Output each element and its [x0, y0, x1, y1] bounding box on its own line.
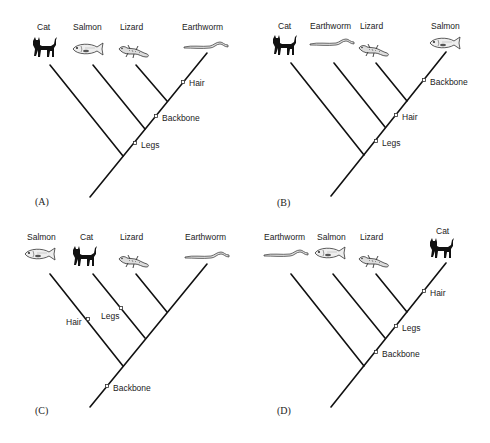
taxon-label-earthworm: Earthworm	[182, 22, 223, 32]
taxon-label-cat: Cat	[278, 21, 292, 31]
taxon-label-lizard: Lizard	[120, 22, 143, 32]
lizard-branch	[376, 63, 407, 101]
character-label-legs: Legs	[101, 311, 119, 321]
salmon-branch	[333, 274, 385, 338]
lizard-branch	[136, 274, 167, 312]
character-label-legs: Legs	[382, 138, 400, 148]
panel-label: (D)	[277, 405, 291, 417]
character-label-legs: Legs	[141, 140, 159, 150]
character-mark	[375, 140, 378, 143]
character-mark	[120, 307, 123, 310]
cat-branch	[93, 274, 145, 338]
taxon-label-earthworm: Earthworm	[185, 232, 226, 242]
character-label-hair: Hair	[430, 288, 446, 298]
lizard-branch	[376, 274, 407, 312]
character-mark	[182, 81, 185, 84]
character-label-hair: Hair	[402, 112, 418, 122]
character-mark	[134, 142, 137, 145]
taxon-label-salmon: Salmon	[27, 232, 56, 242]
character-mark	[87, 318, 90, 321]
character-label-backbone: Backbone	[113, 383, 151, 393]
salmon-icon	[430, 37, 460, 49]
taxon-label-salmon: Salmon	[317, 232, 346, 242]
character-label-hair: Hair	[66, 317, 82, 327]
earthworm-icon	[184, 42, 228, 48]
earthworm-branch	[334, 63, 385, 127]
character-label-backbone: Backbone	[382, 349, 420, 359]
taxon-label-lizard: Lizard	[360, 21, 383, 31]
character-mark	[395, 114, 398, 117]
trunk-branch	[331, 52, 446, 196]
cat-icon	[33, 37, 57, 57]
salmon-branch	[93, 65, 145, 129]
taxon-label-cat: Cat	[436, 226, 450, 236]
character-label-backbone: Backbone	[162, 113, 200, 123]
character-mark	[395, 325, 398, 328]
salmon-icon	[315, 247, 345, 259]
salmon-icon	[25, 248, 55, 260]
lizard-icon	[119, 255, 148, 268]
character-label-backbone: Backbone	[430, 77, 468, 87]
cat-icon	[273, 35, 297, 55]
earthworm-icon	[185, 252, 229, 258]
panel-a: Cat Salmon Lizard Earthworm Hair Backbon…	[33, 22, 228, 208]
taxon-label-earthworm: Earthworm	[310, 21, 351, 31]
trunk-branch	[331, 263, 446, 407]
earthworm-icon	[264, 250, 308, 256]
taxon-label-earthworm: Earthworm	[264, 232, 305, 242]
cat-icon	[430, 238, 454, 258]
cat-icon	[73, 246, 97, 266]
earthworm-icon	[310, 39, 354, 45]
cat-branch	[291, 63, 364, 155]
character-mark	[155, 115, 158, 118]
panel-d: Earthworm Salmon Lizard Cat Hair Legs Ba…	[264, 226, 454, 417]
taxon-label-salmon: Salmon	[431, 21, 460, 31]
lizard-icon	[359, 255, 388, 268]
salmon-icon	[73, 43, 103, 55]
character-label-hair: Hair	[189, 78, 205, 88]
panel-label: (C)	[35, 405, 48, 417]
character-label-legs: Legs	[402, 323, 420, 333]
lizard-branch	[136, 65, 167, 101]
character-mark	[423, 290, 426, 293]
character-mark	[106, 385, 109, 388]
panel-c: Salmon Cat Lizard Earthworm Hair Legs Ba…	[25, 232, 229, 417]
character-mark	[375, 351, 378, 354]
panel-label: (A)	[35, 196, 49, 208]
cladogram-figure: Cat Salmon Lizard Earthworm Hair Backbon…	[0, 0, 490, 443]
lizard-icon	[359, 44, 388, 57]
earthworm-branch	[291, 274, 364, 366]
cat-branch	[50, 65, 123, 156]
taxon-label-cat: Cat	[80, 232, 94, 242]
panel-b: Cat Earthworm Lizard Salmon Backbone Hai…	[273, 21, 468, 209]
character-mark	[423, 79, 426, 82]
taxon-label-lizard: Lizard	[120, 232, 143, 242]
panel-label: (B)	[277, 197, 290, 209]
trunk-branch	[90, 53, 207, 197]
taxon-label-cat: Cat	[37, 22, 51, 32]
taxon-label-lizard: Lizard	[360, 232, 383, 242]
taxon-label-salmon: Salmon	[73, 22, 102, 32]
lizard-icon	[119, 45, 148, 58]
